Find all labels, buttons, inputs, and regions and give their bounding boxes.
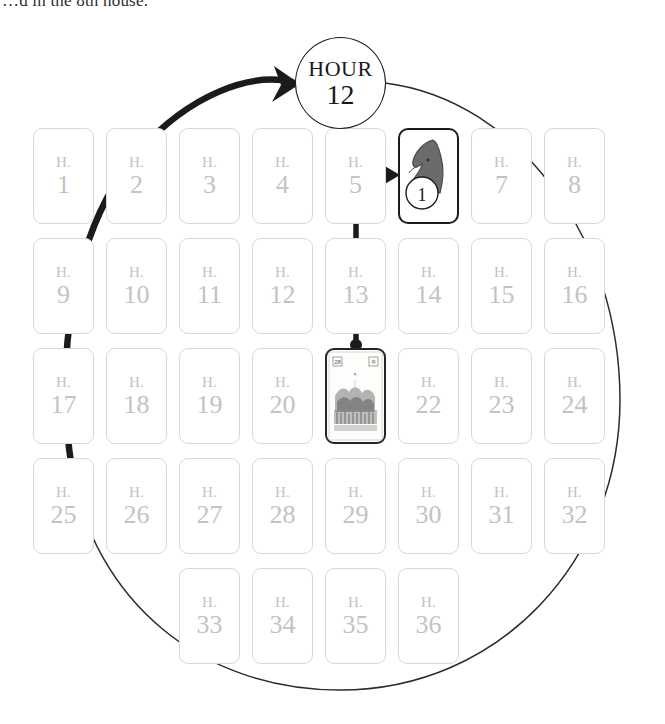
house-card-number: 36 xyxy=(416,612,442,638)
house-card-prefix: H. xyxy=(56,265,71,280)
hour-value: 12 xyxy=(327,81,355,109)
house-card-number: 5 xyxy=(349,172,362,198)
house-card-prefix: H. xyxy=(348,265,363,280)
house-card-number: 17 xyxy=(51,392,77,418)
hour-marker: HOUR 12 xyxy=(295,37,386,129)
house-card-prefix: H. xyxy=(129,155,144,170)
house-card-1[interactable]: H.1 xyxy=(33,128,94,224)
knight-card-house-6[interactable]: 1 xyxy=(398,128,459,224)
house-card-10[interactable]: H.10 xyxy=(106,238,167,334)
house-card-5[interactable]: H.5 xyxy=(325,128,386,224)
house-card-number: 4 xyxy=(276,172,289,198)
house-card-number: 2 xyxy=(130,172,143,198)
house-card-prefix: H. xyxy=(56,375,71,390)
house-card-12[interactable]: H.12 xyxy=(252,238,313,334)
house-card-number: 11 xyxy=(197,282,222,308)
house-card-20[interactable]: H.20 xyxy=(252,348,313,444)
house-card-36[interactable]: H.36 xyxy=(398,568,459,664)
house-card-25[interactable]: H.25 xyxy=(33,458,94,554)
house-card-prefix: H. xyxy=(421,485,436,500)
house-card-35[interactable]: H.35 xyxy=(325,568,386,664)
card-row: H.33H.34H.35H.36 xyxy=(33,568,633,665)
card-row: H.1H.2H.3H.4H.51H.7H.8 xyxy=(33,128,633,225)
hour-label: HOUR xyxy=(308,58,372,80)
house-card-4[interactable]: H.4 xyxy=(252,128,313,224)
house-card-29[interactable]: H.29 xyxy=(325,458,386,554)
house-card-number: 3 xyxy=(203,172,216,198)
house-card-number: 26 xyxy=(124,502,150,528)
house-card-prefix: H. xyxy=(275,155,290,170)
house-card-11[interactable]: H.11 xyxy=(179,238,240,334)
page-caption: …d in the 8th house. xyxy=(0,0,665,11)
house-card-prefix: H. xyxy=(56,155,71,170)
house-card-2[interactable]: H.2 xyxy=(106,128,167,224)
house-card-number: 33 xyxy=(197,612,223,638)
card-row: H.17H.18H.19H.2028✡✶H.22H.23H.24 xyxy=(33,348,633,445)
house-card-number: 22 xyxy=(416,392,442,418)
house-card-prefix: H. xyxy=(56,485,71,500)
house-card-number: 10 xyxy=(124,282,150,308)
house-card-prefix: H. xyxy=(567,155,582,170)
house-card-17[interactable]: H.17 xyxy=(33,348,94,444)
house-card-prefix: H. xyxy=(494,155,509,170)
house-card-number: 34 xyxy=(270,612,296,638)
house-card-9[interactable]: H.9 xyxy=(33,238,94,334)
house-card-8[interactable]: H.8 xyxy=(544,128,605,224)
house-card-grid: H.1H.2H.3H.4H.51H.7H.8H.9H.10H.11H.12H.1… xyxy=(33,128,633,648)
house-card-number: 19 xyxy=(197,392,223,418)
house-card-number: 31 xyxy=(489,502,515,528)
house-card-7[interactable]: H.7 xyxy=(471,128,532,224)
house-card-number: 20 xyxy=(270,392,296,418)
house-card-number: 1 xyxy=(57,172,70,198)
house-card-number: 18 xyxy=(124,392,150,418)
house-card-prefix: H. xyxy=(348,155,363,170)
house-card-prefix: H. xyxy=(202,265,217,280)
svg-text:✶: ✶ xyxy=(353,371,357,377)
house-card-prefix: H. xyxy=(567,265,582,280)
house-card-23[interactable]: H.23 xyxy=(471,348,532,444)
house-card-15[interactable]: H.15 xyxy=(471,238,532,334)
house-card-prefix: H. xyxy=(202,155,217,170)
house-card-28[interactable]: H.28 xyxy=(252,458,313,554)
house-card-prefix: H. xyxy=(129,265,144,280)
house-card-prefix: H. xyxy=(494,485,509,500)
house-card-32[interactable]: H.32 xyxy=(544,458,605,554)
house-card-34[interactable]: H.34 xyxy=(252,568,313,664)
house-card-27[interactable]: H.27 xyxy=(179,458,240,554)
svg-text:✡: ✡ xyxy=(371,359,376,365)
house-card-18[interactable]: H.18 xyxy=(106,348,167,444)
house-card-number: 27 xyxy=(197,502,223,528)
house-card-14[interactable]: H.14 xyxy=(398,238,459,334)
house-card-prefix: H. xyxy=(275,485,290,500)
svg-text:1: 1 xyxy=(418,185,427,205)
house-card-31[interactable]: H.31 xyxy=(471,458,532,554)
house-card-number: 24 xyxy=(562,392,588,418)
house-card-30[interactable]: H.30 xyxy=(398,458,459,554)
house-card-number: 28 xyxy=(270,502,296,528)
house-card-number: 15 xyxy=(489,282,515,308)
house-card-number: 35 xyxy=(343,612,369,638)
house-card-number: 9 xyxy=(57,282,70,308)
house-card-prefix: H. xyxy=(567,375,582,390)
house-card-22[interactable]: H.22 xyxy=(398,348,459,444)
house-card-26[interactable]: H.26 xyxy=(106,458,167,554)
house-card-13[interactable]: H.13 xyxy=(325,238,386,334)
house-card-number: 25 xyxy=(51,502,77,528)
house-card-prefix: H. xyxy=(275,265,290,280)
house-card-number: 30 xyxy=(416,502,442,528)
house-card-number: 14 xyxy=(416,282,442,308)
house-card-3[interactable]: H.3 xyxy=(179,128,240,224)
house-card-number: 16 xyxy=(562,282,588,308)
house-card-prefix: H. xyxy=(421,375,436,390)
house-card-19[interactable]: H.19 xyxy=(179,348,240,444)
illustrated-card-house-21[interactable]: 28✡✶ xyxy=(325,348,386,444)
house-card-prefix: H. xyxy=(202,485,217,500)
house-card-33[interactable]: H.33 xyxy=(179,568,240,664)
house-card-prefix: H. xyxy=(421,265,436,280)
house-card-16[interactable]: H.16 xyxy=(544,238,605,334)
house-card-24[interactable]: H.24 xyxy=(544,348,605,444)
house-card-prefix: H. xyxy=(348,595,363,610)
knight-piece-icon: 1 xyxy=(400,130,457,222)
house-card-prefix: H. xyxy=(494,375,509,390)
house-card-number: 32 xyxy=(562,502,588,528)
